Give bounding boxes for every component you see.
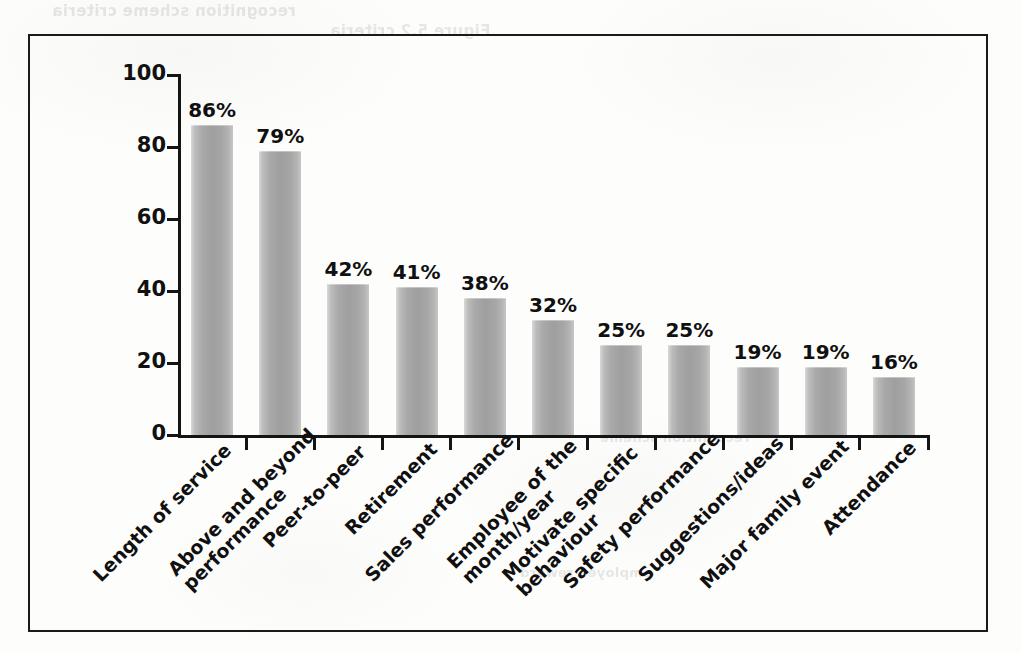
- bar[interactable]: 79%: [259, 151, 301, 435]
- y-tick-label: 0: [151, 423, 166, 444]
- y-tick-label: 80: [137, 135, 166, 156]
- y-tick-mark: [167, 362, 181, 365]
- x-axis-tick: [790, 435, 793, 450]
- bar[interactable]: 16%: [873, 377, 915, 435]
- bar-value-label: 16%: [870, 352, 918, 372]
- x-axis-tick: [245, 435, 248, 450]
- x-axis-tick: [517, 435, 520, 450]
- y-tick-mark: [167, 146, 181, 149]
- bar-value-label: 38%: [461, 273, 509, 293]
- bar-value-label: 86%: [188, 100, 236, 120]
- bar-value-label: 25%: [665, 320, 713, 340]
- bar[interactable]: 42%: [327, 284, 369, 435]
- x-axis-tick: [381, 435, 384, 450]
- bar-value-label: 19%: [734, 342, 782, 362]
- bar[interactable]: 32%: [532, 320, 574, 435]
- bar[interactable]: 25%: [600, 345, 642, 435]
- y-tick-label: 60: [137, 207, 166, 228]
- bar[interactable]: 19%: [805, 367, 847, 435]
- y-tick-mark: [167, 218, 181, 221]
- bar-value-label: 42%: [325, 259, 373, 279]
- x-axis-tick: [927, 435, 930, 450]
- y-tick-mark: [167, 74, 181, 77]
- y-tick-mark: [167, 434, 181, 437]
- bar-value-label: 41%: [393, 262, 441, 282]
- x-axis-tick: [586, 435, 589, 450]
- bar[interactable]: 86%: [191, 125, 233, 435]
- bar-chart-plot-area: 020406080100 86%79%42%41%38%32%25%25%19%…: [178, 75, 928, 435]
- x-axis-tick: [858, 435, 861, 450]
- bar[interactable]: 38%: [464, 298, 506, 435]
- bar[interactable]: 25%: [668, 345, 710, 435]
- bar-value-label: 25%: [597, 320, 645, 340]
- y-tick-label: 40: [137, 279, 166, 300]
- bar[interactable]: 19%: [737, 367, 779, 435]
- bar-value-label: 32%: [529, 295, 577, 315]
- y-axis-line: [178, 75, 181, 435]
- x-axis-tick: [449, 435, 452, 450]
- y-tick-label: 100: [122, 63, 166, 84]
- bar[interactable]: 41%: [396, 287, 438, 435]
- bar-value-label: 19%: [802, 342, 850, 362]
- y-tick-mark: [167, 290, 181, 293]
- x-axis-tick: [654, 435, 657, 450]
- bar-value-label: 79%: [256, 126, 304, 146]
- y-tick-label: 20: [137, 351, 166, 372]
